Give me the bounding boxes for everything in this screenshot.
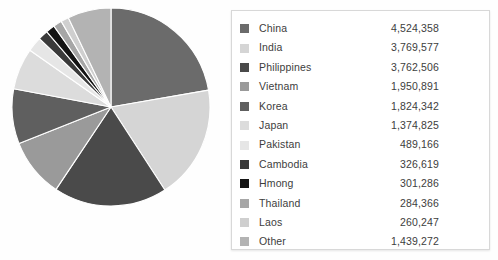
legend-item-label: Vietnam — [259, 77, 298, 96]
pie-chart-svg[interactable] — [11, 7, 213, 209]
legend-item-label: Hmong — [259, 174, 294, 193]
legend-item[interactable]: Japan1,374,825 — [232, 116, 489, 135]
legend-color-swatch-icon — [240, 218, 249, 227]
legend-item-value: 326,619 — [352, 155, 439, 174]
legend-item-value: 1,439,272 — [352, 232, 439, 250]
legend-item[interactable]: Cambodia326,619 — [232, 155, 489, 174]
legend-item-value: 1,374,825 — [352, 116, 439, 135]
legend-item-label: Korea — [259, 97, 288, 116]
legend-color-swatch-icon — [240, 179, 249, 188]
legend-color-swatch-icon — [240, 24, 249, 33]
legend-item-value: 3,769,577 — [352, 38, 439, 57]
legend-item[interactable]: Korea1,824,342 — [232, 97, 489, 116]
legend-color-swatch-icon — [240, 44, 249, 53]
legend-color-swatch-icon — [240, 102, 249, 111]
legend-list: China4,524,358India3,769,577Philippines3… — [232, 19, 489, 250]
legend-color-swatch-icon — [240, 160, 249, 169]
legend-item-label: Pakistan — [259, 135, 300, 154]
legend-item-label: Cambodia — [259, 155, 308, 174]
legend-item[interactable]: Philippines3,762,506 — [232, 58, 489, 77]
legend-item[interactable]: Laos260,247 — [232, 213, 489, 232]
legend-item-label: Philippines — [259, 58, 311, 77]
legend-item[interactable]: China4,524,358 — [232, 19, 489, 38]
legend-color-swatch-icon — [240, 121, 249, 130]
pie-chart[interactable] — [11, 7, 213, 209]
legend-item-label: China — [259, 19, 287, 38]
legend-item-label: Laos — [259, 213, 282, 232]
legend-item[interactable]: Pakistan489,166 — [232, 135, 489, 154]
legend-item-value: 1,950,891 — [352, 77, 439, 96]
legend-item[interactable]: India3,769,577 — [232, 38, 489, 57]
legend-item-value: 260,247 — [352, 213, 439, 232]
legend-color-swatch-icon — [240, 199, 249, 208]
pie-chart-figure: China4,524,358India3,769,577Philippines3… — [0, 0, 498, 260]
legend-item-value: 4,524,358 — [352, 19, 439, 38]
pie-slice-group — [12, 8, 210, 206]
legend-item[interactable]: Hmong301,286 — [232, 174, 489, 193]
legend-color-swatch-icon — [240, 141, 249, 150]
legend-color-swatch-icon — [240, 237, 249, 246]
legend-item-label: India — [259, 38, 283, 57]
legend-item[interactable]: Other1,439,272 — [232, 232, 489, 250]
legend-item-label: Thailand — [259, 194, 300, 213]
legend-item-label: Japan — [259, 116, 288, 135]
legend-color-swatch-icon — [240, 82, 249, 91]
legend-panel: China4,524,358India3,769,577Philippines3… — [231, 10, 490, 250]
legend-item-value: 3,762,506 — [352, 58, 439, 77]
legend-color-swatch-icon — [240, 63, 249, 72]
legend-item[interactable]: Vietnam1,950,891 — [232, 77, 489, 96]
legend-item-value: 284,366 — [352, 194, 439, 213]
legend-item[interactable]: Thailand284,366 — [232, 194, 489, 213]
legend-item-label: Other — [259, 232, 286, 250]
legend-item-value: 489,166 — [352, 135, 439, 154]
legend-item-value: 1,824,342 — [352, 97, 439, 116]
legend-item-value: 301,286 — [352, 174, 439, 193]
